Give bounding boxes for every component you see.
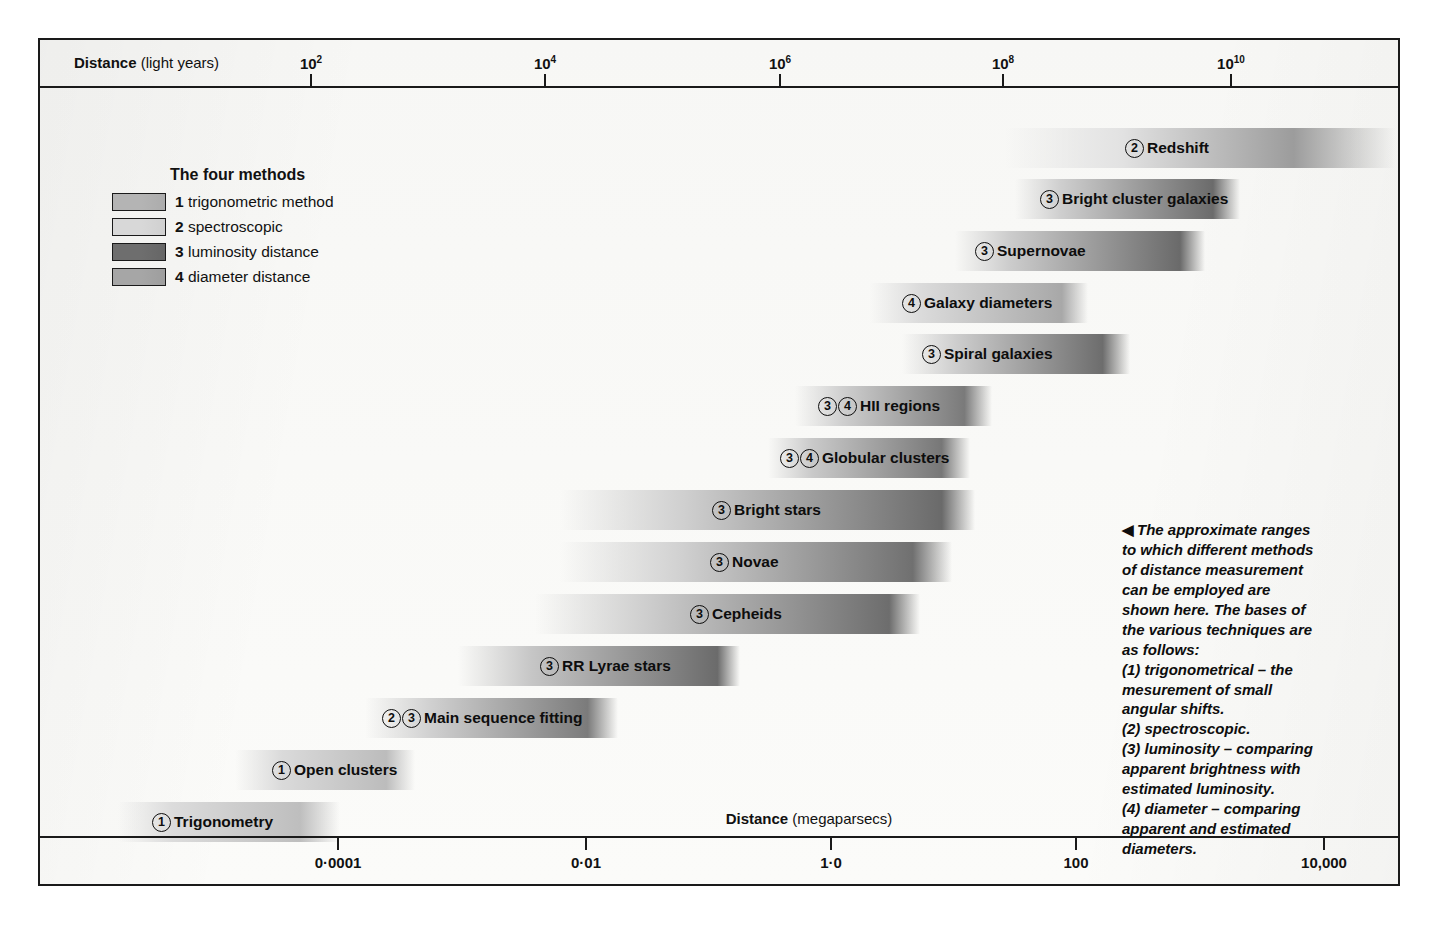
bar-name: Globular clusters	[822, 449, 949, 467]
bar-label: 4Galaxy diameters	[902, 283, 1052, 323]
caption-line: mesurement of small	[1122, 680, 1340, 700]
top-axis-unit: (light years)	[141, 54, 219, 71]
bar-name: Spiral galaxies	[944, 345, 1053, 363]
method-badge-1: 1	[152, 813, 171, 832]
method-badge-3: 3	[710, 553, 729, 572]
method-badge-4: 4	[902, 294, 921, 313]
bottom-axis: Distance (megaparsecs) 0·00010·011·01001…	[40, 836, 1398, 884]
bar-name: Bright cluster galaxies	[1062, 190, 1228, 208]
bar-name: Novae	[732, 553, 779, 571]
axis-tick-label: 108	[992, 54, 1014, 72]
legend-label: 1 trigonometric method	[175, 193, 334, 211]
bar-name: HII regions	[860, 397, 940, 415]
caption-line: shown here. The bases of	[1122, 600, 1340, 620]
bar-label: 3Bright cluster galaxies	[1040, 179, 1228, 219]
bar-name: RR Lyrae stars	[562, 657, 671, 675]
bar-name: Main sequence fitting	[424, 709, 582, 727]
method-badge-4: 4	[838, 397, 857, 416]
bar-label: 2Redshift	[1125, 128, 1209, 168]
caption-line: (1) trigonometrical – the	[1122, 660, 1340, 680]
caption-line: of distance measurement	[1122, 560, 1340, 580]
caption-line: (4) diameter – comparing	[1122, 799, 1340, 819]
bar-name: Supernovae	[997, 242, 1086, 260]
axis-tick-label: 1·0	[820, 854, 842, 871]
method-badge-3: 3	[540, 657, 559, 676]
axis-tick	[830, 838, 832, 850]
axis-tick-label: 104	[534, 54, 556, 72]
bar-label: 23Main sequence fitting	[382, 698, 582, 738]
bar-label: 34HII regions	[818, 386, 940, 426]
legend-title: The four methods	[170, 166, 402, 184]
axis-tick	[1323, 838, 1325, 850]
bar-name: Redshift	[1147, 139, 1209, 157]
axis-tick-label: 0·01	[571, 854, 601, 871]
caption-line: (2) spectroscopic.	[1122, 719, 1340, 739]
top-axis-title-text: Distance	[74, 54, 137, 71]
method-badge-3: 3	[975, 242, 994, 261]
legend-swatch	[112, 218, 166, 236]
legend: The four methods 1 trigonometric method2…	[112, 166, 402, 293]
bar-label: 3RR Lyrae stars	[540, 646, 671, 686]
method-badge-1: 1	[272, 761, 291, 780]
legend-item-2: 2 spectroscopic	[112, 218, 402, 236]
legend-swatch	[112, 243, 166, 261]
method-badge-3: 3	[818, 397, 837, 416]
bar-name: Bright stars	[734, 501, 821, 519]
axis-tick-label: 0·0001	[315, 854, 362, 871]
axis-tick	[1230, 74, 1232, 86]
caption-line: as follows:	[1122, 640, 1340, 660]
bar-label: 3Cepheids	[690, 594, 782, 634]
bar-label: 3Novae	[710, 542, 779, 582]
method-badge-3: 3	[690, 605, 709, 624]
method-badge-3: 3	[922, 345, 941, 364]
caption-line: angular shifts.	[1122, 699, 1340, 719]
method-badge-2: 2	[382, 709, 401, 728]
bar-label: 1Open clusters	[272, 750, 397, 790]
method-badge-4: 4	[800, 449, 819, 468]
bar-label: 3Spiral galaxies	[922, 334, 1053, 374]
legend-item-3: 3 luminosity distance	[112, 243, 402, 261]
method-badge-2: 2	[1125, 139, 1144, 158]
bar-name: Cepheids	[712, 605, 782, 623]
caption-line: to which different methods	[1122, 540, 1340, 560]
axis-tick	[585, 838, 587, 850]
caption-arrow-icon: ◀	[1122, 521, 1134, 538]
axis-tick-label: 106	[769, 54, 791, 72]
legend-label: 2 spectroscopic	[175, 218, 283, 236]
axis-tick-label: 1010	[1217, 54, 1245, 72]
legend-rows: 1 trigonometric method2 spectroscopic3 l…	[112, 193, 402, 286]
bar-name: Trigonometry	[174, 813, 273, 831]
axis-tick	[779, 74, 781, 86]
axis-tick	[310, 74, 312, 86]
legend-item-4: 4 diameter distance	[112, 268, 402, 286]
bar-name: Open clusters	[294, 761, 397, 779]
top-axis: Distance (light years) 1021041061081010	[40, 40, 1398, 88]
legend-label: 3 luminosity distance	[175, 243, 319, 261]
method-badge-3: 3	[780, 449, 799, 468]
figure-frame: Distance (light years) 1021041061081010 …	[38, 38, 1400, 886]
bottom-axis-unit: (megaparsecs)	[792, 810, 892, 827]
caption-line: can be employed are	[1122, 580, 1340, 600]
axis-tick-label: 10,000	[1301, 854, 1347, 871]
bottom-axis-title-text: Distance	[726, 810, 789, 827]
top-axis-title: Distance (light years)	[74, 54, 219, 71]
caption-line: the various techniques are	[1122, 620, 1340, 640]
caption-line: ◀The approximate ranges	[1122, 520, 1340, 540]
axis-tick	[1075, 838, 1077, 850]
caption-line: apparent brightness with	[1122, 759, 1340, 779]
bottom-axis-title: Distance (megaparsecs)	[726, 810, 893, 827]
axis-tick	[337, 838, 339, 850]
axis-tick	[1002, 74, 1004, 86]
legend-label: 4 diameter distance	[175, 268, 310, 286]
legend-item-1: 1 trigonometric method	[112, 193, 402, 211]
bar-name: Galaxy diameters	[924, 294, 1052, 312]
plot-area: The four methods 1 trigonometric method2…	[40, 88, 1398, 836]
method-badge-3: 3	[402, 709, 421, 728]
bar-label: 34Globular clusters	[780, 438, 949, 478]
caption-line: estimated luminosity.	[1122, 779, 1340, 799]
axis-tick-label: 102	[300, 54, 322, 72]
figure-caption: ◀The approximate rangesto which differen…	[1122, 520, 1340, 859]
axis-tick	[544, 74, 546, 86]
axis-tick-label: 100	[1063, 854, 1088, 871]
caption-line: (3) luminosity – comparing	[1122, 739, 1340, 759]
